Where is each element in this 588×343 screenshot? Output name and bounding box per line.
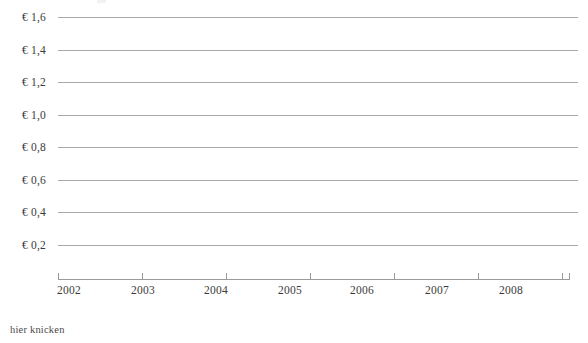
y-axis-tick-label: € 0,6: [22, 174, 46, 186]
y-axis-tick-label: € 0,8: [22, 141, 46, 153]
y-axis-tick-label: € 1,2: [22, 76, 46, 88]
clipped-mark-icon: [97, 0, 106, 3]
x-axis-tick: [562, 273, 563, 280]
x-axis-tick-label: 2005: [278, 284, 302, 296]
gridline: € 0,2: [58, 245, 578, 246]
x-axis-tick: [394, 273, 395, 280]
gridline: € 1,4: [58, 50, 578, 51]
gridline: € 0,8: [58, 147, 578, 148]
gridline: € 1,0: [58, 115, 578, 116]
gridline: € 1,2: [58, 82, 578, 83]
x-axis-tick-label: 2002: [57, 284, 81, 296]
y-axis-tick-label: € 1,0: [22, 109, 46, 121]
gridline: € 0,6: [58, 180, 578, 181]
x-axis-tick-label: 2007: [425, 284, 449, 296]
x-axis-tick: [58, 273, 59, 280]
x-axis-tick: [226, 273, 227, 280]
x-axis-tick: [569, 273, 570, 280]
y-axis-tick-label: € 1,6: [22, 11, 46, 23]
x-axis-tick: [310, 273, 311, 280]
fold-here-note: hier knicken: [10, 324, 65, 335]
x-axis-tick-label: 2003: [131, 284, 155, 296]
euro-year-line-chart: € 1,6 € 1,4 € 1,2 € 1,0 € 0,8 € 0,6 € 0,…: [0, 0, 588, 343]
x-axis-tick: [142, 273, 143, 280]
x-axis-tick: [478, 273, 479, 280]
x-axis-tick-label: 2008: [499, 284, 523, 296]
gridline: € 0,4: [58, 212, 578, 213]
gridline: € 1,6: [58, 17, 578, 18]
x-axis-line: [58, 279, 570, 280]
x-axis-tick-label: 2004: [204, 284, 228, 296]
y-axis-tick-label: € 1,4: [22, 44, 46, 56]
y-axis-tick-label: € 0,2: [22, 239, 46, 251]
y-axis-tick-label: € 0,4: [22, 206, 46, 218]
x-axis-tick-label: 2006: [350, 284, 374, 296]
plot-area: € 1,6 € 1,4 € 1,2 € 1,0 € 0,8 € 0,6 € 0,…: [58, 17, 578, 245]
